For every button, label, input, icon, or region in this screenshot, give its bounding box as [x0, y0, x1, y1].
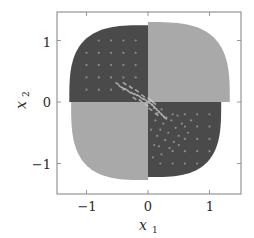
data-point	[159, 129, 161, 131]
data-point	[85, 52, 87, 54]
data-point	[170, 119, 172, 121]
data-point	[208, 138, 210, 140]
data-point	[184, 113, 186, 115]
data-point	[98, 76, 100, 78]
svg-text:x: x	[13, 101, 29, 109]
data-point	[184, 126, 186, 128]
data-point	[110, 76, 112, 78]
data-point	[208, 113, 210, 115]
data-point	[190, 119, 192, 121]
data-point	[196, 150, 198, 152]
data-point	[122, 76, 124, 78]
data-point	[85, 76, 87, 78]
data-point	[154, 119, 156, 121]
xtick-label-1: 1	[206, 199, 214, 214]
data-point	[172, 162, 174, 164]
data-point	[160, 108, 162, 110]
data-point	[176, 114, 178, 116]
ytick-label-0: 0	[43, 95, 51, 110]
data-point	[110, 64, 112, 66]
region-upper-right	[148, 22, 230, 102]
data-point	[110, 52, 112, 54]
xtick-label-neg1: −1	[77, 199, 96, 214]
data-point	[187, 132, 189, 134]
data-point	[208, 150, 210, 152]
data-point	[110, 39, 112, 41]
data-point	[150, 129, 152, 131]
data-point	[172, 150, 174, 152]
data-point	[167, 132, 169, 134]
data-point	[98, 39, 100, 41]
data-point	[196, 138, 198, 140]
xtick-label-0: 0	[144, 199, 152, 214]
data-point	[122, 39, 124, 41]
data-point	[178, 135, 180, 137]
data-point	[135, 52, 137, 54]
data-point	[153, 144, 155, 146]
data-point	[178, 144, 180, 146]
data-point	[172, 113, 174, 115]
y-axis-label: x 2	[13, 91, 31, 109]
data-point	[175, 127, 177, 129]
data-point	[135, 76, 137, 78]
data-point	[122, 64, 124, 66]
data-point	[98, 52, 100, 54]
data-point	[98, 64, 100, 66]
data-point	[196, 162, 198, 164]
data-point	[164, 139, 166, 141]
data-point	[181, 122, 183, 124]
x-axis-label: x 1	[139, 217, 158, 235]
data-point	[85, 89, 87, 91]
quadrant-plot: −1 0 1 1 0 −1 x 1 x 2	[0, 0, 254, 238]
data-point	[85, 64, 87, 66]
data-point	[135, 39, 137, 41]
data-point	[152, 156, 154, 158]
data-point	[159, 162, 161, 164]
data-point	[98, 89, 100, 91]
svg-text:2: 2	[21, 91, 31, 97]
data-point	[196, 126, 198, 128]
data-point	[173, 141, 175, 143]
data-point	[184, 150, 186, 152]
data-point	[158, 145, 160, 147]
region-lower-left	[71, 102, 148, 180]
data-point	[122, 52, 124, 54]
ytick-label-1: 1	[43, 35, 51, 50]
data-point	[135, 64, 137, 66]
quadrant-regions	[69, 22, 230, 180]
data-point	[168, 147, 170, 149]
data-point	[184, 162, 186, 164]
data-point	[208, 126, 210, 128]
svg-text:1: 1	[152, 225, 158, 235]
data-point	[110, 89, 112, 91]
data-point	[196, 113, 198, 115]
data-point	[156, 135, 158, 137]
data-point	[160, 153, 162, 155]
ytick-label-neg1: −1	[32, 157, 51, 172]
data-point	[184, 138, 186, 140]
data-point	[162, 122, 164, 124]
svg-text:x: x	[139, 217, 147, 233]
